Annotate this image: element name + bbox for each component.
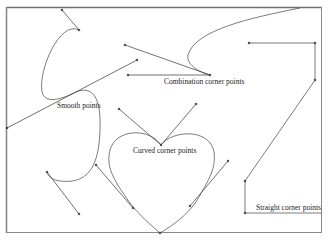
straight-corner-path <box>244 42 322 214</box>
combination-corner-path <box>124 8 300 76</box>
smooth-points-path <box>6 9 138 215</box>
curved-corner-heart-path <box>95 103 229 234</box>
smooth-points-label: Smooth points <box>57 102 101 110</box>
curved-corner-points-label: Curved corner points <box>133 147 196 155</box>
combination-corner-points-label: Combination corner points <box>164 78 244 86</box>
straight-corner-points-label: Straight corner points <box>256 204 321 212</box>
frame <box>6 7 322 233</box>
